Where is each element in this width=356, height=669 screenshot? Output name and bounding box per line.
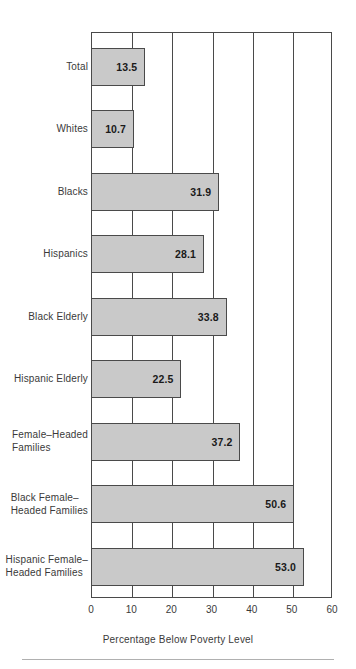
x-tick-30: 30: [206, 604, 217, 615]
bar-value-label: 28.1: [175, 248, 203, 260]
bar-black-elderly: 33.8: [91, 298, 227, 336]
bar-value-label: 33.8: [198, 311, 226, 323]
bar-female-headed-families: 37.2: [91, 423, 240, 461]
bottom-divider: [22, 659, 334, 660]
bar-value-label: 31.9: [190, 186, 218, 198]
category-label-line: Blacks: [58, 185, 88, 198]
bar-hispanics: 28.1: [91, 235, 204, 273]
bar-blacks: 31.9: [91, 173, 219, 211]
bar-hispanic-female-headed-families: 53.0: [91, 548, 304, 586]
category-label-line: Whites: [57, 122, 88, 135]
x-tick-0: 0: [88, 604, 94, 615]
category-label-line: Black Elderly: [28, 310, 88, 323]
x-tick-40: 40: [246, 604, 257, 615]
category-label-line: Families: [12, 441, 88, 454]
x-tick-20: 20: [166, 604, 177, 615]
bar-value-label: 13.5: [116, 61, 144, 73]
x-axis-title: Percentage Below Poverty Level: [0, 634, 356, 645]
bar-black-female-headed-families: 50.6: [91, 485, 294, 523]
category-label-line: Headed Families: [11, 504, 88, 517]
category-label-hispanic-elderly: Hispanic Elderly: [14, 372, 88, 385]
category-label-line: Total: [66, 60, 88, 73]
bar-hispanic-elderly: 22.5: [91, 360, 181, 398]
x-tick-50: 50: [286, 604, 297, 615]
category-label-line: Hispanic Elderly: [14, 372, 88, 385]
poverty-bar-chart-figure: 13.5 10.7 31.9 28.1 33.8 22.5 37.2 50.6 …: [0, 0, 356, 669]
category-label-total: Total: [66, 60, 88, 73]
category-label-line: Female–Headed: [12, 428, 88, 441]
category-label-blacks: Blacks: [58, 185, 88, 198]
category-label-line: Hispanics: [43, 247, 88, 260]
x-tick-10: 10: [126, 604, 137, 615]
x-tick-60: 60: [326, 604, 337, 615]
bar-whites: 10.7: [91, 110, 134, 148]
category-label-line: Headed Families: [6, 566, 88, 579]
category-label-whites: Whites: [57, 122, 88, 135]
bar-value-label: 53.0: [275, 561, 303, 573]
x-axis: 0 10 20 30 40 50 60: [91, 598, 332, 620]
category-label-line: Hispanic Female–: [6, 553, 88, 566]
category-label-line: Black Female–: [11, 491, 88, 504]
bar-value-label: 50.6: [265, 498, 293, 510]
bar-total: 13.5: [91, 48, 145, 86]
bar-value-label: 37.2: [212, 436, 240, 448]
category-label-female-headed-families: Female–Headed Families: [12, 428, 88, 454]
category-label-black-elderly: Black Elderly: [28, 310, 88, 323]
bar-value-label: 10.7: [105, 123, 133, 135]
category-label-black-female-headed-families: Black Female– Headed Families: [11, 491, 88, 517]
bar-value-label: 22.5: [153, 373, 181, 385]
bars-layer: 13.5 10.7 31.9 28.1 33.8 22.5 37.2 50.6 …: [91, 32, 332, 598]
category-label-hispanic-female-headed-families: Hispanic Female– Headed Families: [6, 553, 88, 579]
category-axis-labels: Total Whites Blacks Hispanics Black Elde…: [0, 32, 88, 598]
category-label-hispanics: Hispanics: [43, 247, 88, 260]
